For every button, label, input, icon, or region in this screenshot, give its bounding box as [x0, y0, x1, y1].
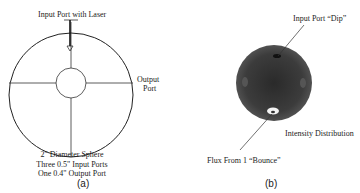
- input-port-dip-label: Input Port “Dip”: [293, 14, 346, 23]
- intensity-distribution-label: Intensity Distribution: [285, 129, 354, 138]
- flux-bounce-label: Flux From 1 “Bounce”: [207, 156, 281, 165]
- caption-b: (b): [265, 178, 277, 189]
- input-port-label: Input Port with Laser: [38, 10, 106, 19]
- spec-line: 2" Diameter Sphere: [30, 150, 114, 160]
- output-port-label-line2: Port: [137, 84, 159, 93]
- spec-line: One 0.4" Output Port: [30, 169, 114, 179]
- integrating-sphere-diagram: [9, 20, 133, 157]
- sphere-spec-text: 2" Diameter Sphere Three 0.5" Input Port…: [30, 150, 114, 179]
- output-port-label-line1: Output: [137, 75, 159, 84]
- spec-line: Three 0.5" Input Ports: [30, 160, 114, 170]
- output-port-label: Output Port: [137, 75, 159, 93]
- caption-a: (a): [77, 178, 89, 189]
